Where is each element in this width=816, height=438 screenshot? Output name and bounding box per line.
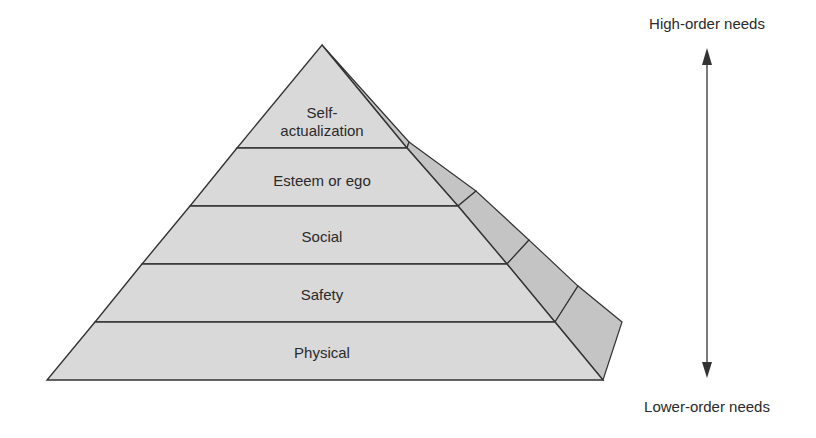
arrow-down-icon bbox=[702, 362, 712, 378]
lower-order-needs-label: Lower-order needs bbox=[644, 398, 770, 415]
label-safety: Safety bbox=[301, 286, 344, 303]
needs-hierarchy-diagram: Self- actualization Esteem or ego Social… bbox=[0, 0, 816, 438]
arrow-up-icon bbox=[702, 48, 712, 65]
high-order-needs-label: High-order needs bbox=[649, 15, 765, 32]
label-physical: Physical bbox=[294, 344, 350, 361]
label-self-actualization-line2: actualization bbox=[280, 122, 363, 139]
label-esteem: Esteem or ego bbox=[273, 172, 371, 189]
pyramid-front-face bbox=[47, 45, 603, 380]
label-self-actualization-line1: Self- bbox=[307, 104, 338, 121]
label-social: Social bbox=[302, 228, 343, 245]
needs-order-axis: High-order needs Lower-order needs bbox=[644, 15, 770, 415]
